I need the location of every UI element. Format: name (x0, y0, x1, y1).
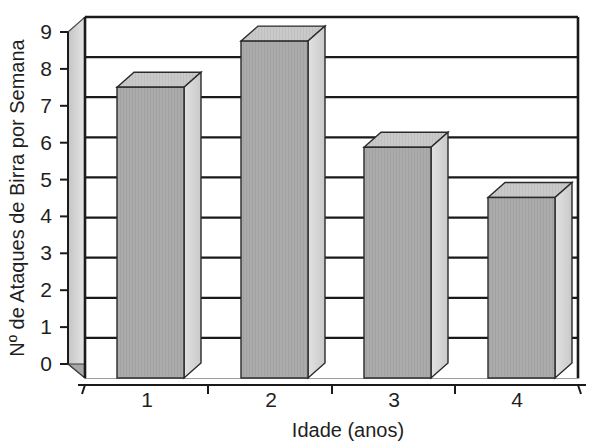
bar-front-face-3 (364, 147, 431, 378)
y-tick-label-1: 1 (40, 315, 52, 338)
y-tick-label-3: 3 (40, 241, 52, 264)
bar-front-face-4 (488, 198, 555, 379)
y-axis-title: Nº de Ataques de Birra por Semana (6, 38, 28, 356)
bar-front-face-1 (117, 87, 184, 378)
bar-chart: 9 8 7 6 5 4 3 2 1 0 1 2 3 4 Idade (0, 0, 599, 443)
x-axis-title: Idade (anos) (292, 419, 404, 441)
y-tick-label-7: 7 (40, 94, 52, 117)
x-tick-label-3: 3 (388, 388, 400, 411)
chart-canvas: 9 8 7 6 5 4 3 2 1 0 1 2 3 4 Idade (0, 0, 599, 443)
x-tick-label-1: 1 (141, 388, 153, 411)
bar-side-face-2 (308, 26, 325, 378)
y-tick-label-5: 5 (40, 168, 52, 191)
bar-side-face-4 (555, 183, 572, 379)
y-tick-label-2: 2 (40, 278, 52, 301)
x-tick-label-2: 2 (265, 388, 277, 411)
bar-side-face-3 (431, 132, 448, 378)
y-tick-label-9: 9 (40, 20, 52, 43)
bar-category-4[interactable] (488, 183, 572, 379)
plot-left-wall (68, 17, 85, 378)
bar-side-face-1 (184, 72, 201, 378)
x-tick-label-4: 4 (511, 388, 523, 411)
y-tick-label-8: 8 (40, 57, 52, 80)
bar-front-face-2 (241, 41, 308, 378)
bar-category-1[interactable] (117, 72, 201, 378)
bar-category-2[interactable] (241, 26, 325, 378)
y-tick-label-6: 6 (40, 131, 52, 154)
bar-category-3[interactable] (364, 132, 448, 378)
y-tick-label-0: 0 (40, 352, 52, 375)
y-tick-label-4: 4 (40, 204, 52, 227)
